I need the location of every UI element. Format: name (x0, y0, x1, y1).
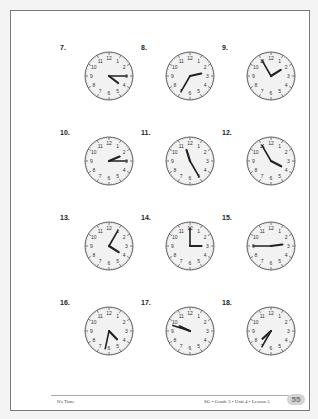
svg-text:7: 7 (261, 88, 264, 94)
svg-text:11: 11 (179, 313, 184, 319)
clock-item: 14.121234567891011 (141, 214, 221, 284)
footer-course-info: SG • Grade 3 • Unit 4 • Lesson 5 (204, 399, 270, 404)
svg-text:3: 3 (206, 328, 209, 334)
svg-text:6: 6 (108, 260, 111, 266)
svg-text:6: 6 (270, 260, 273, 266)
svg-text:7: 7 (99, 258, 102, 264)
svg-text:2: 2 (204, 319, 207, 325)
svg-text:6: 6 (270, 175, 273, 181)
clock-face-icon: 121234567891011 (164, 220, 216, 272)
svg-text:1: 1 (278, 228, 281, 234)
svg-text:8: 8 (92, 167, 95, 173)
svg-text:11: 11 (98, 58, 103, 64)
svg-text:1: 1 (278, 58, 281, 64)
clock-item: 8.121234567891011 (141, 44, 221, 114)
svg-text:12: 12 (268, 140, 274, 146)
svg-text:10: 10 (91, 149, 97, 155)
svg-text:4: 4 (285, 252, 288, 258)
svg-text:3: 3 (287, 73, 290, 79)
problem-number: 17. (141, 299, 151, 306)
clock-item: 15.121234567891011 (222, 214, 302, 284)
svg-text:2: 2 (123, 319, 126, 325)
svg-text:2: 2 (285, 149, 288, 155)
svg-text:7: 7 (180, 173, 183, 179)
svg-text:4: 4 (123, 82, 126, 88)
page-number-badge: 55 (287, 394, 305, 405)
svg-text:11: 11 (260, 313, 265, 319)
svg-text:8: 8 (173, 337, 176, 343)
clock-item: 13.121234567891011 (60, 214, 140, 284)
svg-text:5: 5 (197, 343, 200, 349)
svg-text:7: 7 (180, 258, 183, 264)
clock-item: 11.121234567891011 (141, 129, 221, 199)
svg-text:5: 5 (116, 88, 119, 94)
svg-text:8: 8 (254, 82, 257, 88)
svg-text:5: 5 (278, 343, 281, 349)
svg-text:7: 7 (99, 173, 102, 179)
svg-text:1: 1 (278, 313, 281, 319)
worksheet-page: 7.1212345678910118.1212345678910119.1212… (10, 10, 310, 411)
svg-text:9: 9 (171, 73, 174, 79)
problem-number: 14. (141, 214, 151, 221)
svg-text:11: 11 (98, 313, 103, 319)
svg-text:3: 3 (287, 158, 290, 164)
svg-text:10: 10 (253, 319, 259, 325)
footer-divider (51, 395, 289, 396)
svg-text:6: 6 (108, 90, 111, 96)
clock-item: 9.121234567891011 (222, 44, 302, 114)
svg-text:7: 7 (261, 173, 264, 179)
svg-text:11: 11 (260, 228, 265, 234)
svg-text:10: 10 (172, 319, 178, 325)
svg-text:1: 1 (278, 143, 281, 149)
svg-text:10: 10 (172, 64, 178, 70)
clock-item: 10.121234567891011 (60, 129, 140, 199)
svg-text:7: 7 (261, 258, 264, 264)
svg-text:10: 10 (172, 149, 178, 155)
clock-face-icon: 121234567891011 (83, 305, 135, 357)
clock-face-icon: 121234567891011 (164, 135, 216, 187)
svg-text:11: 11 (179, 143, 184, 149)
svg-text:5: 5 (197, 88, 200, 94)
svg-text:10: 10 (91, 64, 97, 70)
svg-text:9: 9 (90, 243, 93, 249)
svg-text:4: 4 (204, 252, 207, 258)
svg-text:10: 10 (253, 64, 259, 70)
svg-text:8: 8 (173, 252, 176, 258)
svg-text:5: 5 (116, 258, 119, 264)
svg-text:10: 10 (172, 234, 178, 240)
svg-text:2: 2 (285, 319, 288, 325)
svg-text:4: 4 (285, 337, 288, 343)
clock-face-icon: 121234567891011 (164, 305, 216, 357)
svg-text:5: 5 (278, 88, 281, 94)
svg-text:12: 12 (268, 310, 274, 316)
svg-text:12: 12 (106, 140, 112, 146)
svg-text:4: 4 (285, 167, 288, 173)
svg-text:10: 10 (91, 234, 97, 240)
svg-text:5: 5 (197, 258, 200, 264)
svg-text:8: 8 (173, 82, 176, 88)
svg-text:2: 2 (204, 234, 207, 240)
svg-text:12: 12 (106, 225, 112, 231)
problem-number: 7. (60, 44, 66, 51)
svg-text:4: 4 (123, 167, 126, 173)
clock-face-icon: 121234567891011 (245, 305, 297, 357)
svg-text:11: 11 (179, 58, 184, 64)
svg-text:8: 8 (92, 337, 95, 343)
svg-text:4: 4 (204, 82, 207, 88)
footer-title: It's Time (57, 399, 74, 404)
clock-item: 18.121234567891011 (222, 299, 302, 369)
svg-text:3: 3 (287, 243, 290, 249)
clock-item: 17.121234567891011 (141, 299, 221, 369)
svg-text:5: 5 (278, 173, 281, 179)
svg-text:9: 9 (171, 243, 174, 249)
svg-text:2: 2 (123, 234, 126, 240)
svg-text:7: 7 (99, 88, 102, 94)
svg-text:6: 6 (189, 90, 192, 96)
clock-face-icon: 121234567891011 (83, 135, 135, 187)
clock-face-icon: 121234567891011 (83, 220, 135, 272)
svg-text:2: 2 (204, 149, 207, 155)
svg-text:6: 6 (270, 90, 273, 96)
svg-text:9: 9 (90, 158, 93, 164)
svg-text:3: 3 (287, 328, 290, 334)
svg-text:4: 4 (204, 167, 207, 173)
